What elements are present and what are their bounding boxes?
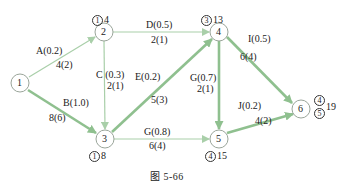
- figure-caption: 图 5-66: [150, 168, 184, 183]
- edge-G1-time: 6(4): [149, 141, 166, 151]
- edge-G2-name: G(0.7): [190, 73, 216, 83]
- node-1-label: 1: [17, 78, 22, 88]
- edge-I: [227, 37, 292, 103]
- edge-I-name: I(0.5): [248, 34, 271, 44]
- edge-B-time: 8(6): [49, 113, 66, 123]
- edge-A: [29, 37, 95, 77]
- edge-J-name: J(0.2): [238, 101, 261, 111]
- edge-I-time: 6(4): [240, 52, 257, 62]
- edge-J-time: 4(2): [255, 116, 272, 126]
- edge-B-name: B(1.0): [63, 98, 89, 108]
- annotation-value: 4: [104, 14, 109, 25]
- edge-D-time: 2(1): [151, 35, 168, 45]
- circled-number: 4: [205, 151, 216, 162]
- node-5-annotation: 415: [205, 151, 227, 162]
- node-6-annotation-bottom: 5: [314, 108, 326, 119]
- circled-number: 4: [314, 95, 325, 106]
- annotation-value: 13: [213, 14, 223, 25]
- edge-G1-name: G(0.8): [144, 127, 170, 137]
- node-6-label: 6: [298, 104, 303, 114]
- node-4-annotation: 313: [201, 15, 223, 26]
- node-5-label: 5: [216, 134, 221, 144]
- circled-number: 1: [89, 151, 100, 162]
- circled-number: 5: [314, 108, 325, 119]
- edge-C-name: C (0.3): [96, 70, 124, 80]
- node-6-annotation-top: 4: [314, 95, 326, 106]
- edge-C: [104, 41, 105, 129]
- annotation-value: 8: [101, 150, 106, 161]
- edge-A-name: A(0.2): [36, 46, 62, 56]
- node-3-label: 3: [102, 134, 107, 144]
- circled-number: 3: [201, 15, 212, 26]
- edge-G2-time: 2(1): [197, 84, 214, 94]
- node-4-label: 4: [216, 27, 221, 37]
- node-2-annotation: 14: [92, 15, 109, 26]
- edge-E-time: 5(3): [151, 95, 168, 105]
- circled-number: 1: [92, 15, 103, 26]
- edge-C-time: 2(1): [107, 81, 124, 91]
- edge-D-name: D(0.5): [146, 20, 172, 30]
- annotation-value: 15: [217, 150, 227, 161]
- edge-A-time: 4(2): [56, 60, 73, 70]
- edge-E-name: E(0.2): [135, 72, 160, 82]
- node-6-value: 19: [326, 102, 336, 112]
- node-3-annotation: 18: [89, 151, 106, 162]
- node-2-label: 2: [101, 27, 106, 37]
